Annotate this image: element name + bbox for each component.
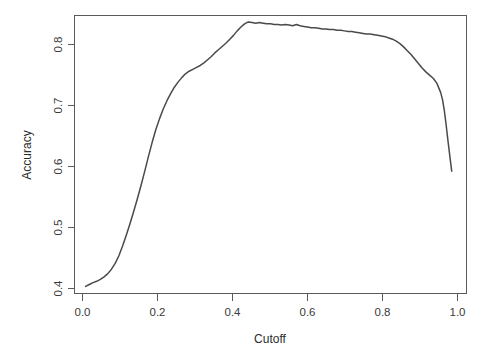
- x-tick-label-4: 0.8: [375, 306, 391, 318]
- y-axis-title: Accuracy: [20, 130, 34, 179]
- y-tick-label-1: 0.5: [52, 220, 64, 236]
- accuracy-cutoff-plot: 0.0 0.2 0.4 0.6 0.8 1.0 0.4 0.5 0.6 0.7 …: [0, 0, 495, 352]
- y-tick-label-0: 0.4: [52, 280, 64, 297]
- x-tick-label-3: 0.6: [300, 306, 316, 318]
- x-tick-label-5: 1.0: [450, 306, 466, 318]
- y-tick-label-3: 0.7: [52, 98, 64, 114]
- chart-screen: 0.0 0.2 0.4 0.6 0.8 1.0 0.4 0.5 0.6 0.7 …: [0, 0, 495, 352]
- x-tick-label-0: 0.0: [75, 306, 91, 318]
- y-tick-label-2: 0.6: [52, 159, 64, 175]
- x-tick-label-1: 0.2: [150, 306, 166, 318]
- x-tick-label-2: 0.4: [225, 306, 242, 318]
- x-axis-title: Cutoff: [254, 332, 286, 346]
- y-tick-label-4: 0.8: [52, 37, 64, 53]
